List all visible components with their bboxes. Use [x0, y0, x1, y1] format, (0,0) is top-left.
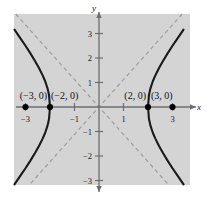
y-tick-label: 1 — [88, 78, 92, 88]
y-tick-label: 2 — [88, 53, 92, 63]
y-tick-label: −2 — [83, 151, 92, 161]
plot-canvas: −3−113321−1−2−3 x y (−3, 0) (−2, 0) (2, … — [0, 0, 207, 198]
y-tick-label: 3 — [88, 29, 92, 39]
point-label-focus-right: (3, 0) — [151, 90, 173, 102]
x-tick-label: 1 — [121, 114, 125, 124]
x-axis-arrow-icon — [190, 104, 196, 109]
point-label-vertex-right: (2, 0) — [124, 90, 146, 102]
x-tick-label: 3 — [170, 114, 174, 124]
hyperbola-figure: −3−113321−1−2−3 x y (−3, 0) (−2, 0) (2, … — [0, 0, 207, 198]
y-tick-label: −1 — [83, 127, 92, 137]
x-tick-label: −3 — [21, 114, 30, 124]
point-label-focus-left: (−3, 0) — [20, 90, 47, 102]
y-axis-arrow-bottom-icon — [96, 186, 101, 192]
y-tick-label: −3 — [83, 176, 92, 186]
y-axis-label: y — [91, 3, 96, 13]
marked-point — [22, 104, 28, 110]
x-tick-label: −1 — [70, 114, 79, 124]
marked-point — [169, 104, 175, 110]
marked-point — [145, 104, 151, 110]
point-label-vertex-left: (−2, 0) — [51, 90, 78, 102]
x-axis-label: x — [196, 102, 201, 112]
marked-point — [47, 104, 53, 110]
